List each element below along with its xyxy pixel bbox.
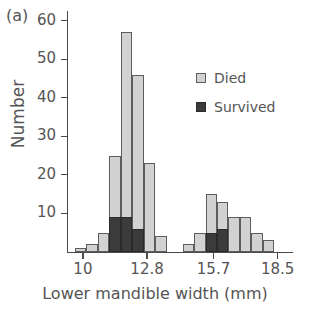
x-axis-label: Lower mandible width (mm) (0, 284, 310, 303)
bar-died (144, 163, 155, 252)
legend-swatch-died (196, 73, 206, 83)
legend-item-died: Died (196, 70, 275, 86)
bar-died (251, 233, 262, 252)
x-axis-line (67, 252, 293, 253)
y-tick-60 (61, 20, 67, 21)
y-tick-30 (61, 136, 67, 137)
y-tick-40 (61, 97, 67, 98)
bar-survived (109, 217, 120, 252)
x-tick-label-15.7: 15.7 (184, 262, 244, 277)
bar-survived (132, 229, 143, 252)
histogram-figure: (a) 102030405060 1012.815.718.5 Number L… (0, 0, 310, 313)
bar-died (132, 75, 143, 252)
y-tick-20 (61, 174, 67, 175)
bar-died (75, 248, 86, 252)
bar-died (228, 217, 239, 252)
x-tick-18.5 (277, 252, 278, 259)
bar-died (183, 244, 194, 252)
legend-swatch-survived (196, 102, 206, 112)
x-tick-label-12.8: 12.8 (117, 262, 177, 277)
y-tick-50 (61, 59, 67, 60)
x-tick-label-18.5: 18.5 (248, 262, 308, 277)
y-tick-label-10: 10 (16, 205, 56, 220)
x-tick-12.8 (146, 252, 147, 259)
bar-died (194, 233, 205, 252)
bar-survived (206, 233, 217, 252)
bar-died (86, 244, 97, 252)
bar-died (155, 236, 166, 251)
x-tick-15.7 (213, 252, 214, 259)
y-axis-line (67, 11, 68, 253)
bar-survived (217, 229, 228, 252)
bar-died (98, 233, 109, 252)
y-tick-label-60: 60 (16, 13, 56, 28)
x-tick-10 (82, 252, 83, 259)
bar-survived (121, 217, 132, 252)
bar-died (263, 240, 274, 252)
legend-label-survived: Survived (214, 99, 275, 115)
legend: Died Survived (196, 70, 275, 128)
y-axis-label: Number (8, 44, 28, 184)
y-tick-10 (61, 213, 67, 214)
bar-died (240, 217, 251, 252)
legend-item-survived: Survived (196, 99, 275, 115)
legend-label-died: Died (214, 70, 246, 86)
x-tick-label-10: 10 (53, 262, 113, 277)
